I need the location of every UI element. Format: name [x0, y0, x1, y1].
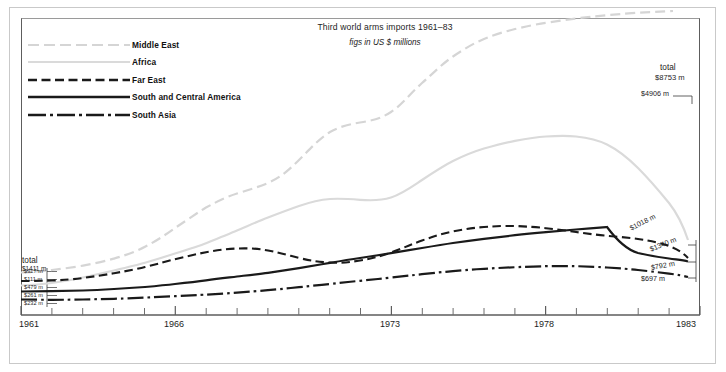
x-axis-minor-ticks [52, 308, 669, 315]
left-total-label: total [22, 255, 38, 265]
series-line-south-asia [21, 266, 688, 300]
x-tick-label-1966: 1966 [164, 319, 184, 329]
right-value-south-asia: $697 m [641, 274, 665, 283]
left-value-south-and-central-america: $261 m [24, 292, 43, 298]
left-value-middle-east: $327 m [24, 268, 43, 274]
chart-page: Third world arms imports 1961–83 figs in… [0, 0, 726, 372]
right-total-value: $8753 m [655, 73, 685, 82]
x-tick-label-1978: 1978 [534, 319, 554, 329]
left-value-far-east: $479 m [24, 284, 43, 290]
right-total-label: total [660, 62, 676, 72]
x-tick-label-1983: 1983 [676, 319, 696, 329]
x-tick-label-1961: 1961 [19, 319, 39, 329]
left-value-africa: $111 m [24, 276, 42, 282]
left-leader-lines [47, 268, 57, 307]
series-line-far-east [21, 226, 688, 281]
x-tick-label-1973: 1973 [380, 319, 400, 329]
series-line-middle-east [21, 11, 673, 273]
left-value-south-asia: $232 m [24, 300, 43, 306]
right-value-middle-east: $4906 m [641, 89, 669, 98]
chart-canvas [0, 0, 726, 372]
series-line-africa [21, 136, 688, 286]
